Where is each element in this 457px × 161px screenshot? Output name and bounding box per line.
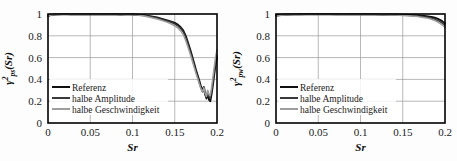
x-tick-label-0: 0 bbox=[273, 126, 279, 138]
x-tick-label-1: 0.05 bbox=[309, 126, 329, 138]
x-tick-label-3: 0.15 bbox=[165, 126, 185, 138]
y-tick-label-5: 1 bbox=[37, 8, 43, 20]
x-tick-label-0: 0 bbox=[45, 126, 51, 138]
legend-label-1: halbe Amplitude bbox=[72, 94, 135, 104]
x-axis-title: Sr bbox=[355, 141, 366, 153]
x-tick-label-3: 0.15 bbox=[393, 126, 413, 138]
y-axis-title-text: γ2pw(Sr) bbox=[229, 51, 245, 86]
chart-panel-gamma-ps: 00.050.10.150.200.20.40.60.81Srγ2ps(Sr)R… bbox=[0, 0, 228, 161]
x-tick-label-4: 0.2 bbox=[210, 126, 224, 138]
y-tick-label-5: 1 bbox=[265, 8, 271, 20]
x-tick-label-2: 0.1 bbox=[354, 126, 368, 138]
y-tick-label-4: 0.8 bbox=[28, 30, 42, 42]
y-axis-title-text: γ2ps(Sr) bbox=[1, 52, 17, 85]
legend-label-0: Referenz bbox=[72, 83, 106, 93]
legend-label-0: Referenz bbox=[300, 83, 334, 93]
legend-label-2: halbe Geschwindigkeit bbox=[300, 105, 388, 115]
y-tick-label-1: 0.2 bbox=[28, 95, 42, 107]
y-tick-label-0: 0 bbox=[265, 117, 271, 129]
y-tick-label-0: 0 bbox=[37, 117, 43, 129]
legend-label-2: halbe Geschwindigkeit bbox=[72, 105, 160, 115]
y-axis-argument: (Sr) bbox=[230, 51, 243, 69]
legend: Referenzhalbe Amplitudehalbe Geschwindig… bbox=[50, 79, 168, 115]
legend-label-1: halbe Amplitude bbox=[300, 94, 363, 104]
y-tick-label-2: 0.4 bbox=[256, 73, 270, 85]
x-tick-label-2: 0.1 bbox=[126, 126, 140, 138]
y-tick-label-4: 0.8 bbox=[256, 30, 270, 42]
legend: Referenzhalbe Amplitudehalbe Geschwindig… bbox=[278, 79, 396, 115]
y-tick-label-2: 0.4 bbox=[28, 73, 42, 85]
y-tick-label-3: 0.6 bbox=[256, 52, 270, 64]
x-axis-title: Sr bbox=[127, 141, 138, 153]
y-tick-label-3: 0.6 bbox=[28, 52, 42, 64]
y-axis-title: γ2pw(Sr) bbox=[229, 51, 245, 86]
y-axis-argument: (Sr) bbox=[2, 52, 15, 70]
figure-two-coherence-plots: 00.050.10.150.200.20.40.60.81Srγ2ps(Sr)R… bbox=[0, 0, 457, 161]
chart-svg-gamma-pw: 00.050.10.150.200.20.40.60.81Srγ2pw(Sr)R… bbox=[228, 0, 456, 161]
x-tick-label-4: 0.2 bbox=[438, 126, 452, 138]
chart-panel-gamma-pw: 00.050.10.150.200.20.40.60.81Srγ2pw(Sr)R… bbox=[228, 0, 456, 161]
chart-svg-gamma-ps: 00.050.10.150.200.20.40.60.81Srγ2ps(Sr)R… bbox=[0, 0, 228, 161]
y-axis-title: γ2ps(Sr) bbox=[1, 52, 17, 85]
x-tick-label-1: 0.05 bbox=[81, 126, 101, 138]
y-axis-subscript: ps bbox=[8, 70, 17, 78]
y-tick-label-1: 0.2 bbox=[256, 95, 270, 107]
